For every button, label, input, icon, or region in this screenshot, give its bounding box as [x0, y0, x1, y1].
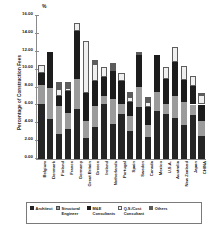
legend-swatch-icon: [56, 206, 60, 210]
bar-group: [38, 65, 44, 159]
x-axis-tick-label: Portugal: [123, 161, 127, 178]
bar-segment: [190, 86, 196, 105]
bar-segment: [154, 55, 160, 92]
bar-segment: [38, 73, 44, 85]
legend-item[interactable]: Architect: [30, 206, 52, 211]
bar-segment: [74, 23, 80, 31]
bar-segment: [118, 73, 124, 81]
x-axis-tick-label: France: [70, 161, 74, 175]
x-axis-tick-label: Sweden: [141, 161, 145, 177]
bar-group: [65, 82, 71, 159]
bar-segment: [56, 82, 62, 89]
bar-group: [110, 63, 116, 159]
bar-segment: [65, 91, 71, 112]
bar-segment: [74, 79, 80, 109]
bar-group: [47, 52, 53, 159]
legend-item[interactable]: M&E Consultants: [87, 206, 115, 217]
bar-group: [172, 47, 178, 159]
y-axis-tick-label: 10.00: [22, 65, 33, 69]
bar-segment: [47, 52, 53, 88]
legend-item[interactable]: Others: [149, 206, 167, 211]
bar-segment: [136, 107, 142, 159]
bar-segment: [198, 121, 204, 135]
x-axis-tick-label: Ireland: [105, 161, 109, 175]
x-axis-tick-label: Japan: [194, 161, 198, 173]
bar-segment: [56, 89, 62, 95]
bar-segment: [181, 80, 187, 101]
bar-segment: [83, 41, 89, 93]
legend-label: Others: [155, 206, 168, 211]
bar-segment: [127, 131, 133, 159]
bar-group: [92, 60, 98, 159]
bar-segment: [92, 81, 98, 106]
x-axis-tick-label: New Zealand: [185, 161, 189, 187]
bar-segment: [65, 82, 71, 87]
x-axis-tick-label: Mexico: [159, 161, 163, 175]
bar-segment: [127, 97, 133, 101]
bar-segment: [163, 67, 169, 80]
x-axis-tick-label: Greece: [96, 161, 100, 175]
bar-segment: [163, 114, 169, 159]
bar-group: [74, 23, 80, 159]
bar-segment: [181, 102, 187, 125]
bar-segment: [118, 104, 124, 114]
legend-item[interactable]: Structural Engineer: [56, 206, 84, 217]
bar-segment: [92, 127, 98, 159]
bar-segment: [101, 67, 107, 77]
x-axis-tick-label: Germany: [79, 161, 83, 179]
bar-segment: [65, 88, 71, 92]
bar-segment: [110, 99, 116, 124]
x-axis-tick-label: Belgium: [43, 161, 47, 178]
bar-segment: [92, 106, 98, 127]
bar-segment: [47, 119, 53, 159]
bar-segment: [172, 47, 178, 62]
y-axis-tick-label: 0.00: [24, 155, 33, 159]
y-axis-tick-label: 14.00: [22, 30, 33, 34]
bar-segment: [110, 71, 116, 100]
bar-group: [83, 41, 89, 159]
y-axis-tick-label: 6.00: [24, 101, 33, 105]
bar-segment: [56, 96, 62, 107]
bar-segment: [190, 76, 196, 86]
bar-segment: [110, 124, 116, 159]
legend-label: Q.S./Cost Consultant: [124, 206, 146, 217]
plot-area: 16.0014.0012.0010.008.006.004.002.000.00: [36, 16, 206, 160]
bar-segment: [83, 121, 89, 139]
bar-group: [101, 67, 107, 159]
bar-group: [154, 55, 160, 159]
bar-segment: [127, 92, 133, 97]
bar-segment: [172, 96, 178, 118]
x-axis-tick-label: Spain: [132, 161, 136, 172]
bar-segment: [47, 88, 53, 119]
bar-segment: [118, 114, 124, 159]
bar-segment: [198, 136, 204, 159]
bar-segment: [145, 125, 151, 137]
bar-group: [145, 97, 151, 159]
bar-segment: [145, 97, 151, 101]
bar-segment: [163, 104, 169, 114]
bar-segment: [163, 79, 169, 104]
bar-segment: [65, 129, 71, 159]
bar-segment: [198, 95, 204, 105]
bar-segment: [83, 138, 89, 159]
stacked-bar-chart: % Percentage of Construction Fees 16.001…: [0, 0, 213, 241]
bar-group: [118, 73, 124, 159]
x-axis-tick-label: U.S.A.: [168, 161, 172, 173]
legend-item[interactable]: Q.S./Cost Consultant: [118, 206, 146, 217]
bar-segment: [145, 107, 151, 125]
x-axis-tick-label: Finland: [61, 161, 65, 176]
bar-group: [190, 76, 196, 159]
bar-segment: [101, 96, 107, 104]
bar-segment: [92, 64, 98, 81]
legend-swatch-icon: [118, 206, 122, 210]
bar-segment: [127, 116, 133, 131]
bar-segment: [83, 93, 89, 121]
x-axis-tick-label: Netherlands: [114, 161, 118, 185]
bar-segment: [101, 77, 107, 97]
bar-segment: [127, 102, 133, 116]
y-axis-tick-label: 12.00: [22, 48, 33, 52]
bar-segment: [172, 62, 178, 95]
bar-group: [163, 67, 169, 159]
bar-segment: [181, 66, 187, 80]
bar-segment: [190, 105, 196, 116]
